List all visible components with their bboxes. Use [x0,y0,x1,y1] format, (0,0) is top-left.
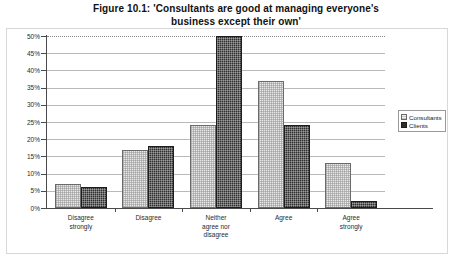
x-axis-category-label: Agreestrongly [313,214,389,231]
y-axis-tick-mark [41,139,46,140]
y-axis-tick-mark [41,88,46,89]
x-axis-category-label-line: Disagree [43,214,119,223]
chart-legend: Consultants Clients [398,110,446,132]
legend-swatch-consultants-icon [401,114,407,120]
bar-consultants [55,184,81,208]
y-axis-tick-label: 25% [0,119,40,126]
y-axis-tick-mark [41,174,46,175]
y-axis-tick-mark [41,70,46,71]
x-axis-category-label-line: disagree [178,231,254,240]
bar-clients [216,36,242,208]
x-axis-tick-mark [317,208,318,212]
x-axis-category-label-line: strongly [313,223,389,232]
bar-clients [148,146,174,208]
bar-consultants [190,125,216,208]
y-axis-tick-label: 0% [0,205,40,212]
y-axis-tick-label: 20% [0,136,40,143]
x-axis-line [46,208,433,209]
bar-clients [81,187,107,208]
y-axis-tick-label: 30% [0,101,40,108]
y-axis-tick-label: 5% [0,187,40,194]
y-axis-tick-label: 45% [0,50,40,57]
y-axis-tick-label: 35% [0,84,40,91]
y-axis-tick-mark [41,191,46,192]
bar-group [190,36,242,208]
y-axis-tick-label: 15% [0,153,40,160]
bar-consultants [325,163,351,208]
bar-group [325,36,377,208]
y-axis-tick-label: 50% [0,33,40,40]
bar-consultants [122,150,148,208]
legend-item-clients: Clients [401,121,442,129]
legend-label-consultants: Consultants [409,114,442,121]
x-axis-category-label: Agree [246,214,322,223]
x-axis-category-label: Disagreestrongly [43,214,119,231]
y-axis-tick-mark [41,156,46,157]
x-axis-category-label-line: Agree [246,214,322,223]
x-axis-category-label-line: Neither [178,214,254,223]
x-axis-category-label-line: Disagree [110,214,186,223]
legend-swatch-clients-icon [401,122,407,128]
y-axis-tick-mark [41,122,46,123]
plot-area [47,36,385,208]
x-axis-tick-mark [115,208,116,212]
chart-title-line-2: business except their own' [0,15,472,28]
y-axis-tick-mark [41,36,46,37]
bar-consultants [258,81,284,208]
chart-title: Figure 10.1: 'Consultants are good at ma… [0,2,472,28]
y-axis-tick-mark [41,53,46,54]
bar-clients [351,201,377,208]
x-axis-tick-mark [250,208,251,212]
y-axis-line [46,35,47,209]
x-axis-category-label-line: Agree [313,214,389,223]
x-axis-tick-mark [182,208,183,212]
legend-label-clients: Clients [409,122,428,129]
y-axis-tick-mark [41,105,46,106]
bar-group [258,36,310,208]
bar-clients [284,125,310,208]
x-axis-category-label: Disagree [110,214,186,223]
y-axis-tick-label: 10% [0,170,40,177]
bar-group [55,36,107,208]
bar-group [122,36,174,208]
chart-title-line-1: Figure 10.1: 'Consultants are good at ma… [93,3,379,14]
figure-chart: Figure 10.1: 'Consultants are good at ma… [0,0,472,262]
x-axis-category-label: Neitheragree nordisagree [178,214,254,240]
x-axis-category-label-line: agree nor [178,223,254,232]
y-axis-tick-mark [41,208,46,209]
legend-item-consultants: Consultants [401,113,442,121]
x-axis-category-label-line: strongly [43,223,119,232]
y-axis-tick-label: 40% [0,67,40,74]
